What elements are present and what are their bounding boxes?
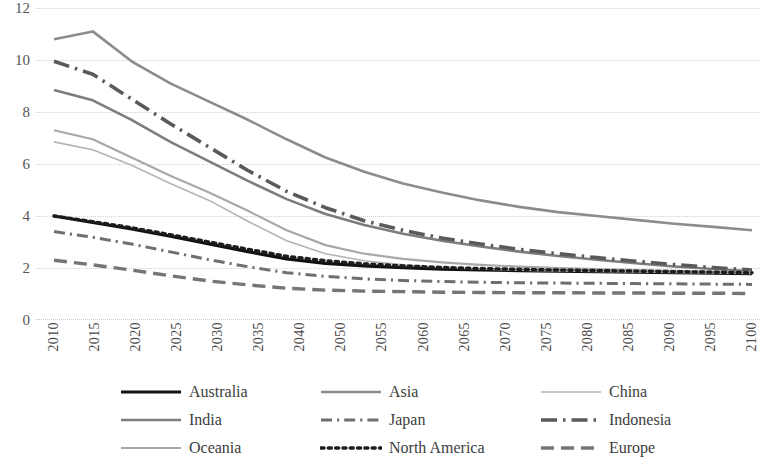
x-axis-tick-label: 2065 <box>458 322 472 352</box>
x-axis-tick-label: 2050 <box>334 322 348 352</box>
x-axis-tick-label: 2015 <box>88 322 102 352</box>
legend-label: Oceania <box>189 440 241 456</box>
y-axis: 121086420 <box>0 0 34 320</box>
legend-label: North America <box>389 440 485 456</box>
legend-label: Europe <box>609 440 655 456</box>
series-lines <box>36 8 760 320</box>
series-line-indonesia <box>54 61 752 270</box>
legend-swatch-icon <box>120 413 182 427</box>
y-axis-tick-label: 8 <box>23 105 31 120</box>
plot-area <box>36 8 760 320</box>
x-axis-tick-label: 2025 <box>170 322 184 352</box>
legend-swatch-icon <box>120 385 182 399</box>
x-axis-tick-label: 2010 <box>47 322 61 352</box>
legend-row: AustraliaAsiaChina <box>120 378 740 406</box>
y-axis-tick-label: 2 <box>23 261 31 276</box>
legend-swatch-icon <box>320 441 382 455</box>
series-line-china <box>54 142 752 274</box>
x-axis-tick-label: 2085 <box>622 322 636 352</box>
x-axis-tick-label: 2100 <box>745 322 759 352</box>
x-axis-tick-label: 2070 <box>499 322 513 352</box>
legend-label: China <box>609 384 647 400</box>
legend-swatch-icon <box>540 385 602 399</box>
legend-swatch-icon <box>120 441 182 455</box>
x-axis-tick-label: 2035 <box>252 322 266 352</box>
x-axis-tick-label: 2060 <box>417 322 431 352</box>
line-chart: 121086420 201020152020202520302035204020… <box>0 0 774 464</box>
legend-label: Asia <box>389 384 418 400</box>
x-axis-tick-label: 2020 <box>129 322 143 352</box>
series-line-oceania <box>54 130 752 272</box>
series-line-asia <box>54 31 752 230</box>
legend-label: Australia <box>189 384 248 400</box>
legend-item-indonesia[interactable]: Indonesia <box>540 412 740 428</box>
legend-row: OceaniaNorth AmericaEurope <box>120 434 740 462</box>
x-axis-tick-label: 2090 <box>663 322 677 352</box>
x-axis-line <box>36 319 760 320</box>
legend-item-north-america[interactable]: North America <box>320 440 540 456</box>
x-axis-tick-label: 2095 <box>704 322 718 352</box>
legend-item-europe[interactable]: Europe <box>540 440 740 456</box>
series-line-india <box>54 90 752 271</box>
legend-item-india[interactable]: India <box>120 412 320 428</box>
legend-label: Japan <box>389 412 425 428</box>
y-axis-tick-label: 0 <box>23 313 31 328</box>
legend-swatch-icon <box>320 413 382 427</box>
legend-item-asia[interactable]: Asia <box>320 384 540 400</box>
x-axis: 2010201520202025203020352040205020552060… <box>36 322 760 376</box>
legend-item-japan[interactable]: Japan <box>320 412 540 428</box>
x-axis-tick-label: 2040 <box>293 322 307 352</box>
legend-item-china[interactable]: China <box>540 384 740 400</box>
legend-swatch-icon <box>320 385 382 399</box>
legend-row: IndiaJapanIndonesia <box>120 406 740 434</box>
y-axis-tick-label: 10 <box>15 53 30 68</box>
legend-label: India <box>189 412 222 428</box>
legend-item-oceania[interactable]: Oceania <box>120 440 320 456</box>
x-axis-tick-label: 2075 <box>540 322 554 352</box>
legend-swatch-icon <box>540 441 602 455</box>
x-axis-tick-label: 2055 <box>375 322 389 352</box>
y-axis-tick-label: 12 <box>15 1 30 16</box>
x-axis-tick-label: 2030 <box>211 322 225 352</box>
y-axis-tick-label: 4 <box>23 209 31 224</box>
y-axis-tick-label: 6 <box>23 157 31 172</box>
legend-item-australia[interactable]: Australia <box>120 384 320 400</box>
legend-swatch-icon <box>540 413 602 427</box>
legend-label: Indonesia <box>609 412 671 428</box>
chart-legend: AustraliaAsiaChinaIndiaJapanIndonesiaOce… <box>120 378 740 462</box>
x-axis-tick-label: 2080 <box>581 322 595 352</box>
